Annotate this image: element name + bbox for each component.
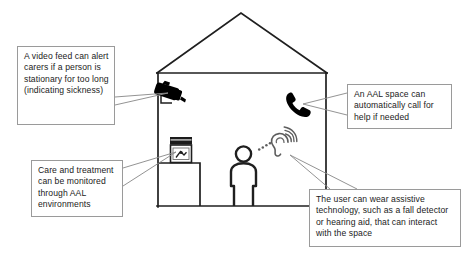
callout-care-treatment-text: Care and treatment can be monitored thro… xyxy=(38,165,114,209)
leader-care-treatment xyxy=(123,152,176,186)
callout-video-feed: A video feed can alert carers if a perso… xyxy=(17,46,115,125)
callout-leaders xyxy=(115,93,357,189)
person-icon xyxy=(231,146,256,206)
callout-aal-call-text: An AAL space can automatically call for … xyxy=(354,89,434,122)
leader-assistive-tech xyxy=(290,155,357,189)
hearing-aid-icon xyxy=(258,127,297,156)
callout-care-treatment: Care and treatment can be monitored thro… xyxy=(31,160,123,217)
callout-assistive-tech: The user can wear assistive technology, … xyxy=(309,189,461,247)
counter-unit xyxy=(158,163,200,206)
callout-video-feed-text: A video feed can alert carers if a perso… xyxy=(24,51,109,95)
diagram-canvas: A video feed can alert carers if a perso… xyxy=(0,0,468,255)
leader-video-feed xyxy=(115,93,168,105)
roof-line xyxy=(157,13,327,73)
callout-aal-call: An AAL space can automatically call for … xyxy=(347,84,452,129)
medicine-bottle-icon xyxy=(170,137,192,163)
callout-assistive-tech-text: The user can wear assistive technology, … xyxy=(316,194,448,238)
